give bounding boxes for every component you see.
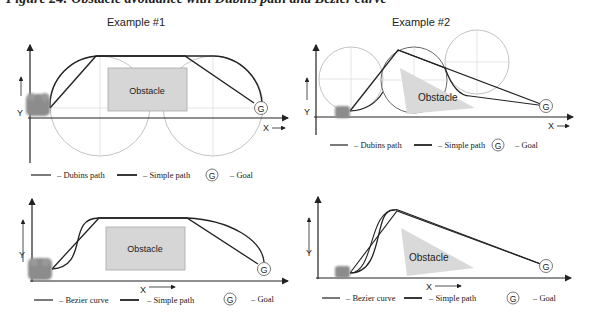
legend-goal-label: – Goal xyxy=(229,170,254,180)
legend-goal-label: – Goal xyxy=(514,140,539,150)
x-label: X xyxy=(140,285,146,295)
svg-text:G: G xyxy=(209,171,216,181)
obstacle: Obstacle xyxy=(108,68,187,111)
obstacle: Obstacle xyxy=(106,227,185,270)
legend-dubins-label: – Dubins path xyxy=(353,140,402,150)
obstacle-label: Obstacle xyxy=(409,252,449,263)
legend-bezier-label: – Bezier curve xyxy=(345,293,396,303)
legend: – Bezier curve – Simple path G – Goal xyxy=(322,292,557,304)
svg-text:G: G xyxy=(495,141,502,151)
legend: – Dubins path – Simple path G – Goal xyxy=(330,139,539,151)
legend-simple-label: – Simple path xyxy=(437,140,486,150)
robot-icon xyxy=(26,93,50,116)
panel-bezier-example-2: Obstacle Y X G – Bezier curve xyxy=(306,197,571,304)
robot-icon xyxy=(335,266,350,278)
legend: – Dubins path – Simple path G – Goal xyxy=(31,169,254,181)
svg-text:G: G xyxy=(510,294,517,304)
svg-text:G: G xyxy=(260,265,267,275)
robot-icon xyxy=(28,258,52,280)
svg-text:G: G xyxy=(227,295,234,305)
x-label: X xyxy=(263,123,269,133)
x-label: X xyxy=(426,282,432,292)
panel-dubins-example-1: Obstacle Y X G xyxy=(17,45,288,181)
legend-simple-label: – Simple path xyxy=(142,170,191,180)
legend-goal-label: – Goal xyxy=(250,294,275,304)
y-label: Y xyxy=(306,248,312,258)
panel-dubins-example-2: Obstacle Y X G – Dubins path xyxy=(304,30,573,151)
obstacle-label: Obstacle xyxy=(418,92,458,103)
legend-simple-label: – Simple path xyxy=(428,293,477,303)
goal-icon: G xyxy=(255,102,268,115)
figure: Figure 24: Obstacle avoidance with Dubin… xyxy=(0,0,593,326)
robot-icon xyxy=(335,106,350,118)
svg-text:G: G xyxy=(257,104,264,114)
y-label: Y xyxy=(304,107,310,117)
obstacle-label: Obstacle xyxy=(129,86,165,96)
legend-dubins-label: – Dubins path xyxy=(56,170,105,180)
panel-bezier-example-1: Obstacle Y X G – Bezie xyxy=(19,199,288,305)
x-label: X xyxy=(548,121,554,131)
svg-text:G: G xyxy=(542,262,549,272)
y-label: Y xyxy=(17,108,23,118)
svg-text:G: G xyxy=(542,102,549,112)
legend: – Bezier curve – Simple path G – Goal xyxy=(34,293,275,305)
y-label: Y xyxy=(19,250,25,260)
legend-goal-label: – Goal xyxy=(532,293,557,303)
goal-icon: G xyxy=(258,263,271,276)
legend-simple-label: – Simple path xyxy=(146,295,195,305)
goal-icon: G xyxy=(540,260,553,273)
diagram-canvas: Obstacle Y X G xyxy=(0,0,593,326)
goal-icon: G xyxy=(540,100,553,113)
obstacle-label: Obstacle xyxy=(127,244,163,254)
legend-bezier-label: – Bezier curve xyxy=(58,295,109,305)
